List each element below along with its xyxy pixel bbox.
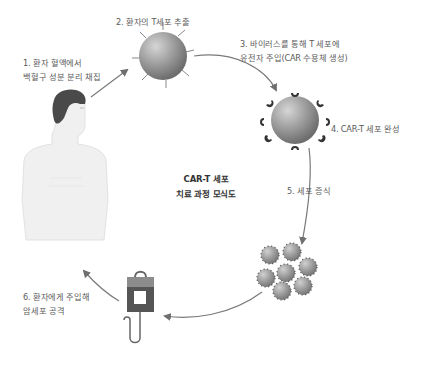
step-6-line-1: 6. 환자에게 주입해 bbox=[23, 290, 90, 304]
step-5-line-1: 5. 세포 증식 bbox=[287, 184, 330, 198]
arrow-5-to-6 bbox=[165, 292, 262, 317]
iv-bag-icon bbox=[124, 272, 154, 343]
step-1-line-2: 백혈구 성분 분리 채집 bbox=[23, 70, 100, 84]
diagram-title: CAR-T 세포 치료 과정 모식도 bbox=[160, 172, 252, 202]
step-3-line-2: 유전자 주입(CAR 수용체 생성) bbox=[240, 51, 348, 65]
step-2-line-1: 2. 환자의 T세포 추출 bbox=[116, 15, 190, 29]
step-2-label: 2. 환자의 T세포 추출 bbox=[116, 15, 190, 29]
step-4-label: 4. CAR-T 세포 완성 bbox=[331, 122, 400, 136]
cell-cluster-icon bbox=[257, 243, 317, 300]
step-1-line-1: 1. 환자 혈액에서 bbox=[23, 56, 100, 70]
step-1-label: 1. 환자 혈액에서 백혈구 성분 분리 채집 bbox=[23, 56, 100, 84]
car-t-cell-icon bbox=[260, 93, 330, 150]
step-3-line-1: 3. 바이러스를 통해 T 세포에 bbox=[240, 37, 348, 51]
step-3-label: 3. 바이러스를 통해 T 세포에 유전자 주입(CAR 수용체 생성) bbox=[240, 37, 348, 65]
human-body-icon bbox=[22, 89, 108, 240]
step-4-line-1: 4. CAR-T 세포 완성 bbox=[331, 122, 400, 136]
step-6-line-2: 암세포 공격 bbox=[23, 304, 90, 318]
title-line-2: 치료 과정 모식도 bbox=[160, 187, 252, 202]
title-line-1: CAR-T 세포 bbox=[160, 172, 252, 187]
step-6-label: 6. 환자에게 주입해 암세포 공격 bbox=[23, 290, 90, 318]
car-t-diagram: CAR-T 세포 치료 과정 모식도 1. 환자 혈액에서 백혈구 성분 분리 … bbox=[0, 0, 422, 369]
step-5-label: 5. 세포 증식 bbox=[287, 184, 330, 198]
t-cell-icon bbox=[132, 22, 194, 88]
